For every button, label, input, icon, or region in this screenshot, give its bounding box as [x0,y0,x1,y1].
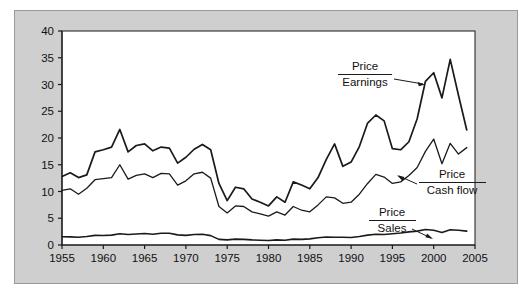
y-tick-label: 15 [41,159,54,171]
pcf-denominator: Cash flow [427,184,478,196]
pe-denominator: Earnings [342,76,388,88]
x-tick-label: 1965 [132,252,158,264]
y-tick-label: 30 [41,79,54,91]
x-tick-label: 1955 [49,252,75,264]
x-tick-label: 2005 [462,252,488,264]
x-tick-label: 1990 [338,252,364,264]
y-tick-label: 20 [41,132,54,144]
pe-numerator: Price [352,60,378,72]
y-tick-label: 10 [41,186,54,198]
x-tick-label: 1960 [91,252,117,264]
ps-denominator: Sales [378,222,407,234]
y-tick-label: 0 [48,239,54,251]
y-tick-label: 40 [41,25,54,37]
x-tick-label: 1975 [214,252,240,264]
y-axis: 0510152025303540 [41,25,62,251]
pcf-numerator: Price [439,168,465,180]
ps-numerator: Price [379,206,405,218]
x-tick-label: 1970 [173,252,199,264]
x-axis: 1955196019651970197519801985199019952000… [49,245,488,264]
y-tick-label: 5 [48,212,54,224]
x-tick-label: 1985 [297,252,323,264]
plot-area-background [62,31,475,245]
x-tick-label: 2000 [421,252,447,264]
x-tick-label: 1995 [380,252,406,264]
y-tick-label: 25 [41,105,54,117]
x-tick-label: 1980 [256,252,282,264]
y-tick-label: 35 [41,52,54,64]
chart-svg: 0510152025303540 19551960196519701975198… [0,0,532,295]
